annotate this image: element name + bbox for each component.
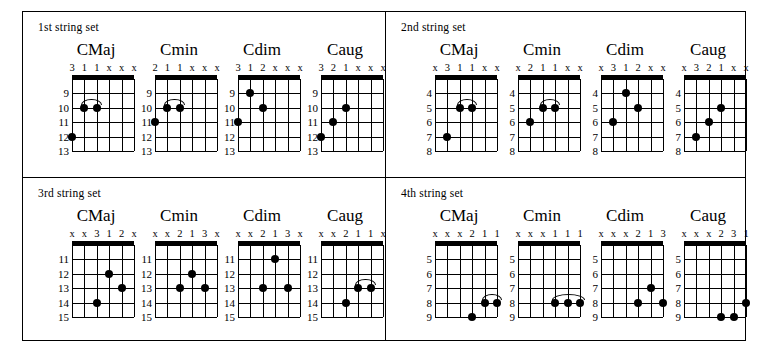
finger-marker: 1 xyxy=(340,62,352,74)
chord-name: CMaj xyxy=(52,41,140,58)
finger-marker: x xyxy=(211,228,223,240)
string-line xyxy=(447,245,448,317)
fret-line xyxy=(72,245,134,246)
fret-number: 5 xyxy=(593,102,599,113)
chord-name: CMaj xyxy=(415,207,503,224)
fret-line xyxy=(321,79,383,80)
fret-number: 6 xyxy=(676,268,682,279)
finger-marker: 1 xyxy=(161,62,173,74)
finger-dot xyxy=(201,284,209,292)
fret-number: 15 xyxy=(141,312,152,323)
finger-number-row: xxx211 xyxy=(435,228,497,240)
finger-dot xyxy=(717,104,725,112)
finger-marker: x xyxy=(512,62,524,74)
fret-number: 13 xyxy=(224,283,235,294)
fret-line xyxy=(684,259,746,260)
finger-marker: 1 xyxy=(454,62,466,74)
string-line xyxy=(84,79,85,151)
string-line xyxy=(696,245,697,317)
string-line xyxy=(97,79,98,151)
string-line xyxy=(288,79,289,151)
fret-line xyxy=(518,245,580,246)
grid-lines xyxy=(684,79,746,151)
finger-dot xyxy=(259,104,267,112)
finger-marker: 3 xyxy=(199,228,211,240)
finger-dot xyxy=(317,133,325,141)
fret-number: 8 xyxy=(427,146,433,157)
finger-marker: 3 xyxy=(441,62,453,74)
fret-line xyxy=(684,122,746,123)
string-line xyxy=(638,79,639,151)
fret-line xyxy=(321,274,383,275)
finger-number-row: x311xx xyxy=(435,62,497,74)
finger-dot xyxy=(151,118,159,126)
string-line xyxy=(601,245,602,317)
finger-marker: x xyxy=(512,228,524,240)
finger-marker: x xyxy=(128,62,140,74)
fret-number: 9 xyxy=(593,312,599,323)
finger-marker: x xyxy=(678,62,690,74)
grid-lines xyxy=(601,245,663,317)
finger-marker: 3 xyxy=(315,62,327,74)
finger-dot xyxy=(551,104,559,112)
fretboard-grid xyxy=(155,241,217,317)
fretboard-grid xyxy=(238,75,300,151)
fret-number: 5 xyxy=(676,254,682,265)
fret-number-column: 56789 xyxy=(415,241,433,317)
fret-line xyxy=(321,317,383,318)
string-line xyxy=(601,79,602,151)
finger-marker: x xyxy=(232,228,244,240)
fret-number: 9 xyxy=(427,312,433,323)
finger-dot xyxy=(93,104,101,112)
finger-marker: x xyxy=(454,228,466,240)
fret-number: 5 xyxy=(510,102,516,113)
finger-marker: 3 xyxy=(607,62,619,74)
fret-line xyxy=(321,303,383,304)
fret-number: 11 xyxy=(307,254,318,265)
fret-line xyxy=(321,151,383,152)
fret-line xyxy=(155,93,217,94)
string-line xyxy=(626,245,627,317)
finger-dot xyxy=(367,284,375,292)
fret-line xyxy=(684,274,746,275)
fret-line xyxy=(601,259,663,260)
string-line xyxy=(205,245,206,317)
grid-lines xyxy=(518,79,580,151)
fret-number-column: 910111213 xyxy=(301,75,319,151)
finger-dot xyxy=(634,299,642,307)
finger-marker: 1 xyxy=(537,62,549,74)
finger-marker: x xyxy=(294,228,306,240)
finger-marker: 1 xyxy=(466,62,478,74)
string-line xyxy=(180,79,181,151)
fret-number: 9 xyxy=(230,88,236,99)
finger-marker: x xyxy=(282,62,294,74)
fretboard-grid xyxy=(684,75,746,151)
finger-dot xyxy=(246,89,254,97)
quadrant-horizontal-divider xyxy=(22,177,746,178)
chord-chart-sheet: 1st string setCMaj311xxx910111213Cmin211… xyxy=(0,0,766,352)
fret-line xyxy=(684,108,746,109)
fret-line xyxy=(435,317,497,318)
string-line xyxy=(333,245,334,317)
string-line xyxy=(518,245,519,317)
finger-marker: 1 xyxy=(244,62,256,74)
fret-line xyxy=(321,259,383,260)
fret-line xyxy=(518,137,580,138)
fret-line xyxy=(435,79,497,80)
fret-number: 12 xyxy=(141,268,152,279)
fret-number: 9 xyxy=(313,88,319,99)
fret-line xyxy=(72,303,134,304)
fret-number: 6 xyxy=(510,117,516,128)
string-line xyxy=(472,79,473,151)
string-line xyxy=(460,245,461,317)
finger-dot xyxy=(622,89,630,97)
fret-number: 9 xyxy=(676,312,682,323)
fret-line xyxy=(518,317,580,318)
string-line xyxy=(180,245,181,317)
grid-lines xyxy=(321,79,383,151)
finger-marker: x xyxy=(149,228,161,240)
fret-line xyxy=(518,93,580,94)
string-line xyxy=(555,79,556,151)
finger-marker: x xyxy=(186,62,198,74)
finger-dot xyxy=(163,104,171,112)
